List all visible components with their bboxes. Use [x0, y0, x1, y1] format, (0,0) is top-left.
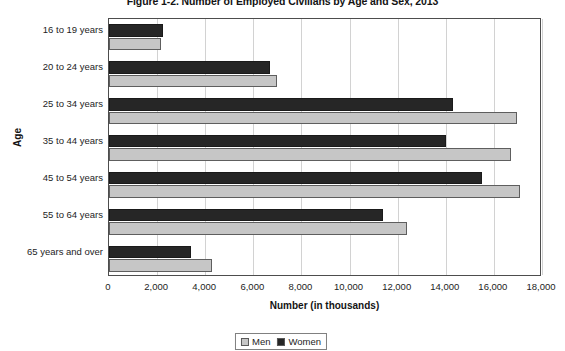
bar-women	[109, 24, 163, 37]
x-tick-label: 16,000	[478, 281, 507, 292]
bar-women	[109, 135, 446, 148]
x-tick-label: 14,000	[430, 281, 459, 292]
bar-men	[109, 259, 212, 272]
legend-swatch-women-icon	[277, 338, 285, 346]
legend-entry-men: Men	[241, 336, 270, 347]
bar-women	[109, 246, 191, 259]
bar-group	[109, 240, 540, 277]
x-tick-label: 0	[105, 281, 110, 292]
bar-women	[109, 172, 482, 185]
x-tick-label: 10,000	[334, 281, 363, 292]
x-axis-tick-labels: 02,0004,0006,0008,00010,00012,00014,0001…	[108, 281, 541, 297]
y-tick-label: 20 to 24 years	[3, 61, 103, 72]
x-tick-label: 12,000	[382, 281, 411, 292]
chart-figure: Figure 1-2. Number of Employed Civilians…	[0, 0, 565, 351]
legend-swatch-men-icon	[241, 338, 249, 346]
bar-women	[109, 61, 270, 74]
x-tick-label: 18,000	[526, 281, 555, 292]
bar-men	[109, 112, 517, 125]
bar-group	[109, 56, 540, 93]
x-tick-label: 2,000	[144, 281, 168, 292]
chart-legend: Men Women	[235, 333, 327, 350]
bar-group	[109, 19, 540, 56]
y-axis-title: Age	[12, 108, 23, 168]
plot-area	[108, 18, 541, 276]
legend-entry-women: Women	[277, 336, 321, 347]
bar-women	[109, 98, 453, 111]
y-tick-label: 45 to 54 years	[3, 172, 103, 183]
bar-group	[109, 93, 540, 130]
bar-men	[109, 75, 277, 88]
legend-label-men: Men	[252, 336, 270, 347]
gridline	[542, 19, 543, 275]
bar-men	[109, 148, 511, 161]
x-axis-title: Number (in thousands)	[108, 300, 541, 311]
x-tick-label: 4,000	[192, 281, 216, 292]
bar-group	[109, 130, 540, 167]
bar-men	[109, 222, 407, 235]
x-tick-label: 8,000	[289, 281, 313, 292]
bar-women	[109, 209, 383, 222]
bar-men	[109, 38, 161, 51]
y-tick-label: 16 to 19 years	[3, 24, 103, 35]
y-tick-label: 65 years and over	[3, 246, 103, 257]
chart-title: Figure 1-2. Number of Employed Civilians…	[0, 0, 565, 7]
y-tick-label: 55 to 64 years	[3, 209, 103, 220]
bar-group	[109, 166, 540, 203]
bar-group	[109, 203, 540, 240]
legend-label-women: Women	[288, 336, 321, 347]
bar-men	[109, 185, 520, 198]
x-tick-label: 6,000	[240, 281, 264, 292]
